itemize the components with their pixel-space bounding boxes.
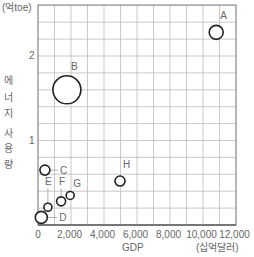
marker-circle bbox=[40, 165, 50, 175]
y-title-char: 지 bbox=[4, 109, 13, 119]
point-label: F bbox=[59, 176, 65, 187]
x-tick-label: 12,000 bbox=[219, 230, 250, 240]
x-tick-label: 6,000 bbox=[123, 230, 148, 240]
marker-circle bbox=[35, 211, 47, 223]
x-axis-unit: (십억달러) bbox=[196, 243, 239, 253]
point-label: E bbox=[45, 176, 52, 187]
x-tick-label: 8,000 bbox=[156, 230, 181, 240]
data-point-B: B bbox=[53, 61, 81, 104]
y-title-char: 용 bbox=[4, 144, 13, 154]
data-point-G: G bbox=[66, 178, 81, 199]
x-tick-label: 4,000 bbox=[90, 230, 115, 240]
y-tick-label: 2 bbox=[29, 51, 35, 61]
data-point-D: D bbox=[35, 211, 66, 223]
x-tick-label: 2,000 bbox=[57, 230, 82, 240]
point-label: A bbox=[220, 10, 227, 21]
x-tick-label: 0 bbox=[35, 230, 41, 240]
marker-circle bbox=[66, 191, 74, 199]
x-axis-title: GDP bbox=[122, 243, 144, 253]
marker-circle bbox=[44, 203, 52, 211]
marker-circle bbox=[209, 25, 223, 39]
data-point-A: A bbox=[209, 10, 227, 39]
y-title-char: 에 bbox=[4, 76, 13, 86]
marker-circle bbox=[53, 76, 81, 104]
y-axis-unit: (억toe) bbox=[2, 3, 32, 13]
point-label: B bbox=[71, 61, 78, 72]
point-label: D bbox=[59, 212, 66, 223]
y-title-char: 사 bbox=[4, 129, 13, 139]
x-tick-label: 10,000 bbox=[186, 230, 217, 240]
scatter-plot: ABCDEFGH bbox=[0, 0, 254, 257]
marker-circle bbox=[115, 176, 125, 186]
data-point-E: E bbox=[44, 176, 52, 211]
point-label: G bbox=[73, 178, 81, 189]
point-label: C bbox=[60, 165, 67, 176]
y-title-char: 량 bbox=[4, 160, 13, 170]
point-label: H bbox=[123, 159, 130, 170]
data-point-H: H bbox=[115, 159, 130, 186]
y-title-char: 너 bbox=[4, 93, 13, 103]
marker-circle bbox=[57, 197, 66, 206]
y-tick-label: 1 bbox=[29, 136, 35, 146]
